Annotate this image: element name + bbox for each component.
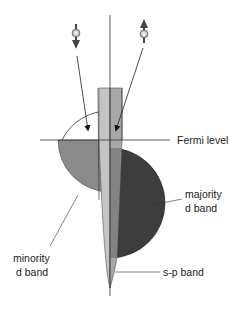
minority-leader-line (50, 195, 78, 246)
minority-label-line2: d band (16, 265, 48, 279)
fermi-level-label: Fermi level (177, 133, 228, 147)
sp-band-label: s-p band (163, 265, 204, 279)
majority-label-line1: majority (185, 187, 222, 201)
majority-label-line2: d band (185, 201, 217, 215)
minority-label-line1: minority (13, 251, 50, 265)
spin-down-arrow-icon (77, 56, 88, 130)
spin-down-electron-icon (72, 24, 80, 49)
spin-up-electron-icon (140, 19, 148, 43)
sp-band (99, 88, 122, 288)
